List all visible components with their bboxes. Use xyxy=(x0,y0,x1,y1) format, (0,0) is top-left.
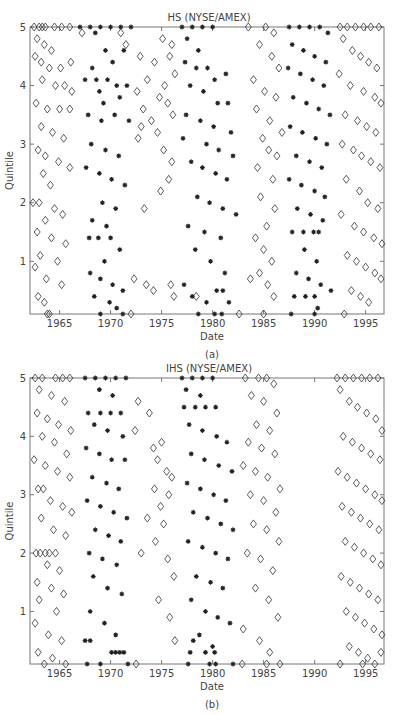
asterisk-marker xyxy=(185,481,190,486)
diamond-marker xyxy=(44,561,50,569)
diamond-marker xyxy=(363,485,369,493)
asterisk-marker xyxy=(122,183,127,188)
asterisk-marker xyxy=(210,25,215,30)
diamond-marker xyxy=(44,415,50,423)
diamond-marker xyxy=(62,397,68,405)
asterisk-marker xyxy=(185,36,190,41)
diamond-marker xyxy=(264,526,270,534)
asterisk-marker xyxy=(190,376,195,381)
asterisk-marker xyxy=(188,650,193,655)
asterisk-marker xyxy=(214,288,219,293)
asterisk-marker xyxy=(114,562,119,567)
asterisk-marker xyxy=(229,130,234,135)
diamond-marker xyxy=(358,514,364,522)
asterisk-marker xyxy=(211,124,216,129)
y-tick-label: 4 xyxy=(20,80,26,91)
diamond-marker xyxy=(36,199,42,207)
diamond-marker xyxy=(364,409,370,417)
diamond-marker xyxy=(32,263,38,271)
diamond-marker xyxy=(368,158,374,166)
diamond-marker xyxy=(358,52,364,60)
asterisk-marker xyxy=(218,522,223,527)
asterisk-marker xyxy=(183,60,188,65)
asterisk-marker xyxy=(227,300,232,305)
diamond-marker xyxy=(272,450,278,458)
scatter-chart-ihs: IHS (NYSE/AMEX)1965197019751980198519901… xyxy=(0,355,398,715)
asterisk-marker xyxy=(187,422,192,427)
asterisk-marker xyxy=(120,434,125,439)
asterisk-marker xyxy=(109,457,114,462)
diamond-marker xyxy=(38,123,44,131)
diamond-marker xyxy=(60,210,66,218)
diamond-marker xyxy=(150,444,156,452)
chart-title: IHS (NYSE/AMEX) xyxy=(166,363,252,374)
x-tick-label: 1975 xyxy=(149,318,174,329)
diamond-marker xyxy=(347,578,353,586)
asterisk-marker xyxy=(186,662,191,667)
asterisk-marker xyxy=(226,557,231,562)
asterisk-marker xyxy=(234,212,239,217)
diamond-marker xyxy=(352,613,358,621)
diamond-marker xyxy=(42,152,48,160)
diamond-marker xyxy=(44,105,50,113)
asterisk-marker xyxy=(109,177,114,182)
diamond-marker xyxy=(366,590,372,598)
diamond-marker xyxy=(57,567,63,575)
diamond-marker xyxy=(34,35,40,43)
asterisk-marker xyxy=(314,259,319,264)
diamond-marker xyxy=(155,128,161,136)
asterisk-marker xyxy=(210,376,215,381)
diamond-marker xyxy=(39,432,45,440)
asterisk-marker xyxy=(106,533,111,538)
asterisk-marker xyxy=(220,206,225,211)
diamond-marker xyxy=(69,508,75,516)
diamond-marker xyxy=(63,240,69,248)
diamond-marker xyxy=(362,619,368,627)
diamond-marker xyxy=(337,386,343,394)
asterisk-marker xyxy=(117,95,122,100)
diamond-marker xyxy=(64,450,70,458)
diamond-marker xyxy=(265,473,271,481)
asterisk-marker xyxy=(98,25,103,30)
diamond-marker xyxy=(338,210,344,218)
diamond-marker xyxy=(158,502,164,510)
diamond-marker xyxy=(348,508,354,516)
diamond-marker xyxy=(354,117,360,125)
asterisk-marker xyxy=(92,422,97,427)
diamond-marker xyxy=(36,386,42,394)
panel-a: HS (NYSE/AMEX)19651970197519801985199019… xyxy=(0,0,398,360)
diamond-marker xyxy=(41,298,47,306)
asterisk-marker xyxy=(125,516,130,521)
diamond-marker xyxy=(61,134,67,142)
y-tick-label: 3 xyxy=(20,139,26,150)
diamond-marker xyxy=(359,444,365,452)
asterisk-marker xyxy=(193,247,198,252)
asterisk-marker xyxy=(328,112,333,117)
diamond-marker xyxy=(339,502,345,510)
asterisk-marker xyxy=(78,25,83,30)
asterisk-marker xyxy=(213,551,218,556)
y-tick-label: 3 xyxy=(20,489,26,500)
diamond-marker xyxy=(343,607,349,615)
asterisk-marker xyxy=(111,510,116,515)
asterisk-marker xyxy=(212,77,217,82)
diamond-marker xyxy=(47,181,53,189)
diamond-marker xyxy=(257,269,263,277)
y-tick-label: 1 xyxy=(20,256,26,267)
asterisk-marker xyxy=(99,118,104,123)
diamond-marker xyxy=(164,467,170,475)
diamond-marker xyxy=(158,187,164,195)
diamond-marker xyxy=(259,444,265,452)
asterisk-marker xyxy=(195,194,200,199)
asterisk-marker xyxy=(325,30,330,35)
diamond-marker xyxy=(335,467,341,475)
asterisk-marker xyxy=(307,159,312,164)
diamond-marker xyxy=(359,152,365,160)
asterisk-marker xyxy=(223,71,228,76)
diamond-marker xyxy=(365,199,371,207)
asterisk-marker xyxy=(201,89,206,94)
diamond-marker xyxy=(143,281,149,289)
diamond-marker xyxy=(167,52,173,60)
diamond-marker xyxy=(67,473,73,481)
asterisk-marker xyxy=(98,662,103,667)
